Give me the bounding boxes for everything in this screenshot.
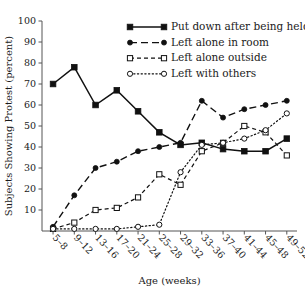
series-line bbox=[53, 113, 287, 228]
data-point bbox=[135, 224, 140, 229]
data-point bbox=[220, 146, 226, 152]
y-tick-label: 20 bbox=[24, 183, 36, 194]
y-tick-label: 10 bbox=[24, 204, 36, 215]
legend-marker bbox=[127, 56, 132, 61]
data-point bbox=[72, 220, 77, 225]
series-2 bbox=[51, 98, 290, 229]
data-point bbox=[93, 102, 99, 108]
legend-entry[interactable]: Left alone in room bbox=[128, 36, 270, 48]
legend-entry[interactable]: Left with others bbox=[127, 67, 256, 79]
data-point bbox=[242, 107, 247, 112]
data-point bbox=[199, 98, 204, 103]
data-point bbox=[284, 98, 289, 103]
x-axis-title: Age (weeks) bbox=[137, 275, 200, 286]
data-point bbox=[93, 166, 98, 171]
y-axis-title: Subjects Showing Protest (percent) bbox=[3, 36, 14, 217]
legend-label: Put down after being held bbox=[171, 20, 305, 32]
series-3 bbox=[50, 123, 289, 231]
y-tick-label: 100 bbox=[18, 15, 36, 26]
data-point bbox=[199, 142, 204, 147]
legend-marker bbox=[127, 71, 132, 76]
x-tick-label: 5–8 bbox=[51, 232, 71, 252]
data-point bbox=[50, 81, 56, 87]
x-tick-label: 9–12 bbox=[72, 232, 96, 256]
legend-marker bbox=[161, 56, 166, 61]
legend-label: Left with others bbox=[171, 67, 256, 79]
data-point bbox=[284, 136, 290, 142]
data-point bbox=[284, 111, 289, 116]
y-tick-label: 40 bbox=[24, 141, 36, 152]
legend-marker bbox=[127, 24, 133, 30]
data-point bbox=[135, 109, 141, 115]
data-point bbox=[263, 128, 268, 133]
data-point bbox=[284, 153, 289, 158]
data-point bbox=[263, 103, 268, 108]
data-point bbox=[263, 148, 269, 154]
data-point bbox=[157, 222, 162, 227]
data-point bbox=[199, 149, 204, 154]
data-point bbox=[242, 148, 248, 154]
y-tick-label: 30 bbox=[24, 162, 36, 173]
line-chart: 1020304050607080901005–89–1213–1617–2021… bbox=[0, 0, 305, 289]
legend-label: Left alone outside bbox=[171, 51, 267, 63]
y-tick-label: 80 bbox=[24, 57, 36, 68]
data-point bbox=[93, 207, 98, 212]
legend-label: Left alone in room bbox=[171, 36, 269, 48]
y-tick-label: 50 bbox=[24, 120, 36, 131]
data-point bbox=[157, 145, 162, 150]
y-tick-label: 70 bbox=[24, 78, 36, 89]
data-point bbox=[178, 170, 183, 175]
data-point bbox=[72, 226, 77, 231]
legend-marker bbox=[162, 40, 167, 45]
data-point bbox=[242, 123, 247, 128]
data-point bbox=[93, 226, 98, 231]
y-tick-label: 60 bbox=[24, 99, 36, 110]
chart-figure: 1020304050607080901005–89–1213–1617–2021… bbox=[0, 0, 305, 289]
legend-marker bbox=[161, 71, 166, 76]
legend-marker bbox=[161, 24, 167, 30]
data-point bbox=[114, 88, 120, 94]
legend-marker bbox=[128, 40, 133, 45]
data-point bbox=[114, 159, 119, 164]
legend-entry[interactable]: Left alone outside bbox=[127, 51, 266, 63]
data-point bbox=[220, 140, 225, 145]
data-point bbox=[157, 130, 163, 136]
data-point bbox=[114, 226, 119, 231]
series-line bbox=[53, 67, 287, 151]
data-point bbox=[72, 193, 77, 198]
data-point bbox=[242, 136, 247, 141]
data-point bbox=[72, 64, 78, 70]
y-tick-label: 90 bbox=[24, 36, 36, 47]
data-point bbox=[114, 205, 119, 210]
data-point bbox=[135, 195, 140, 200]
data-point bbox=[157, 172, 162, 177]
series-line bbox=[53, 101, 287, 227]
data-point bbox=[136, 149, 141, 154]
data-point bbox=[50, 226, 55, 231]
legend-entry[interactable]: Put down after being held bbox=[127, 20, 305, 32]
data-point bbox=[178, 182, 183, 187]
data-point bbox=[221, 115, 226, 120]
data-point bbox=[178, 140, 183, 145]
